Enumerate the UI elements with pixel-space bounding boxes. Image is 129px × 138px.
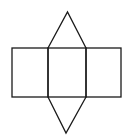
rect-middle-face	[48, 48, 86, 97]
triangle-top-face	[48, 12, 86, 48]
rect-left-face	[12, 48, 48, 97]
rect-right-face	[86, 48, 121, 97]
triangle-bottom-face	[48, 97, 86, 133]
prism-net-diagram	[0, 0, 129, 138]
